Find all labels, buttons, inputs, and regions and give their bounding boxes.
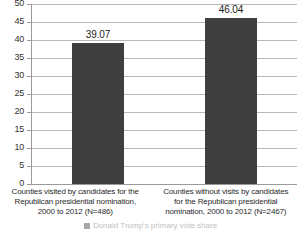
y-tick-label-5: 5: [2, 161, 24, 170]
y-tick-mark-40: [27, 40, 31, 41]
y-tick-mark-5: [27, 166, 31, 167]
y-tick-label-50: 50: [2, 0, 24, 8]
legend-swatch-icon: [84, 223, 90, 229]
legend-label-0: Donald Trump's primary vote share: [93, 222, 217, 230]
x-axis-label-1-line-2: nomination, 2000 to 2012 (N=2467): [152, 207, 301, 217]
y-tick-mark-30: [27, 76, 31, 77]
y-tick-mark-10: [27, 148, 31, 149]
y-tick-label-40: 40: [2, 35, 24, 44]
gridline-45: [32, 22, 297, 23]
data-label-1: 46.04: [191, 5, 271, 15]
y-tick-mark-25: [27, 94, 31, 95]
y-tick-label-20: 20: [2, 107, 24, 116]
bar-chart: 50454035302520151050 39.0746.04 Counties…: [0, 0, 301, 230]
legend: Donald Trump's primary vote share: [0, 222, 301, 230]
y-tick-label-45: 45: [2, 17, 24, 26]
x-axis-label-1: Counties without visits by candidates fo…: [151, 187, 302, 218]
y-tick-mark-0: [27, 184, 31, 185]
x-axis-label-0-line-1: Republican presidential nomination,: [1, 197, 150, 207]
x-axis-label-1-line-1: for the Republican presidential: [152, 197, 301, 207]
x-axis-label-1-line-0: Counties without visits by candidates: [152, 187, 301, 197]
y-tick-mark-35: [27, 58, 31, 59]
y-tick-mark-45: [27, 22, 31, 23]
y-tick-mark-50: [27, 4, 31, 5]
gridline-0: [32, 184, 297, 185]
data-label-0: 39.07: [58, 30, 138, 40]
x-axis-labels: Counties visited by candidates for the R…: [0, 187, 301, 218]
y-tick-label-10: 10: [2, 143, 24, 152]
bar-0: [72, 43, 124, 184]
y-tick-mark-15: [27, 130, 31, 131]
y-tick-label-25: 25: [2, 89, 24, 98]
y-tick-label-35: 35: [2, 53, 24, 62]
x-axis-label-0: Counties visited by candidates for the R…: [0, 187, 151, 218]
gridline-40: [32, 40, 297, 41]
bar-1: [205, 18, 257, 184]
y-tick-mark-20: [27, 112, 31, 113]
x-axis-label-0-line-0: Counties visited by candidates for the: [1, 187, 150, 197]
x-axis-label-0-line-2: 2000 to 2012 (N=486): [1, 207, 150, 217]
y-tick-label-15: 15: [2, 125, 24, 134]
y-tick-label-30: 30: [2, 71, 24, 80]
